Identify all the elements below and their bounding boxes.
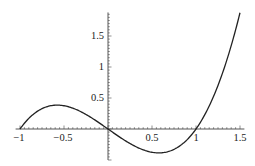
x-tick-label: −1 [13, 133, 24, 144]
y-tick-label: 1.5 [91, 31, 104, 42]
x-tick-label: −0.5 [53, 133, 72, 144]
y-tick-label: 1 [99, 62, 104, 73]
x-tick-label: 1 [193, 133, 198, 144]
chart: −1−0.50.511.5 0.511.5 [0, 0, 255, 166]
y-axis [108, 12, 112, 160]
x-tick-label: 0.5 [145, 133, 158, 144]
plot-area [0, 0, 255, 166]
x-axis [16, 126, 245, 130]
y-tick-label: 0.5 [91, 93, 104, 104]
x-tick-label: 1.5 [233, 133, 246, 144]
